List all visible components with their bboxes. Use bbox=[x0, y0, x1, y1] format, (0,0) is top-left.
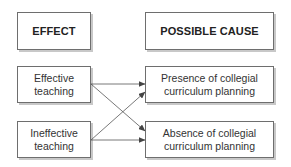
arrow-ineffective-to-presence bbox=[91, 92, 145, 140]
arrow-effective-to-absence bbox=[91, 84, 145, 131]
connector-arrows bbox=[0, 0, 291, 167]
